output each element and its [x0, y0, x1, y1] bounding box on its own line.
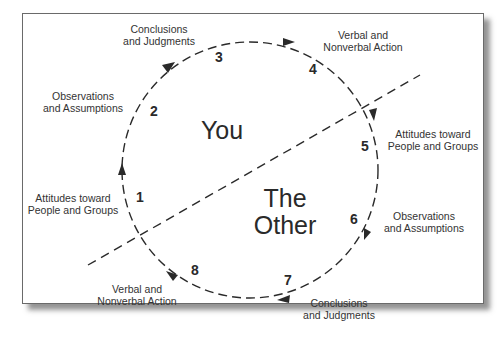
step-number-4: 4: [309, 61, 317, 77]
arrow-icon-6: [277, 295, 290, 303]
step-label-2: Observations and Assumptions: [43, 90, 123, 114]
step-number-5: 5: [361, 138, 369, 154]
step-label-8-line2: Nonverbal Action: [97, 295, 176, 307]
region-the-other: The Other: [254, 185, 317, 239]
step-label-5-line2: People and Groups: [388, 140, 478, 152]
step-number-3: 3: [215, 49, 223, 65]
arrow-icon-4: [369, 108, 377, 121]
step-label-2-line2: and Assumptions: [43, 102, 123, 114]
step-label-8-line1: Verbal and: [112, 283, 162, 295]
step-label-3: Conclusions and Judgments: [123, 23, 195, 47]
step-label-6-line1: Observations: [393, 210, 455, 222]
step-label-7-line1: Conclusions: [310, 297, 367, 309]
cycle-circle: [122, 42, 378, 298]
arrow-icon-5: [364, 228, 371, 240]
cycle-diagram: [0, 0, 502, 349]
step-label-7-line2: and Judgments: [303, 309, 375, 321]
step-label-4: Verbal and Nonverbal Action: [323, 29, 402, 53]
step-label-1-line2: People and Groups: [28, 204, 118, 216]
step-label-5: Attitudes toward People and Groups: [388, 128, 478, 152]
step-label-2-line1: Observations: [52, 90, 114, 102]
step-label-1: Attitudes toward People and Groups: [28, 192, 118, 216]
step-label-5-line1: Attitudes toward: [395, 128, 470, 140]
step-label-4-line2: Nonverbal Action: [323, 41, 402, 53]
step-number-2: 2: [150, 103, 158, 119]
arrow-icon-1: [118, 163, 126, 175]
step-label-4-line1: Verbal and: [338, 29, 388, 41]
step-label-8: Verbal and Nonverbal Action: [97, 283, 176, 307]
step-label-6: Observations and Assumptions: [384, 210, 464, 234]
region-other-line2: Other: [254, 211, 317, 239]
step-label-1-line1: Attitudes toward: [35, 192, 110, 204]
step-number-6: 6: [350, 211, 358, 227]
step-label-3-line2: and Judgments: [123, 35, 195, 47]
step-number-8: 8: [191, 262, 199, 278]
arrow-icon-7: [166, 271, 178, 281]
step-number-1: 1: [136, 189, 144, 205]
step-label-7: Conclusions and Judgments: [303, 297, 375, 321]
step-label-3-line1: Conclusions: [130, 23, 187, 35]
region-you: You: [201, 117, 243, 144]
region-other-line1: The: [263, 184, 306, 212]
step-number-7: 7: [284, 272, 292, 288]
step-label-6-line2: and Assumptions: [384, 222, 464, 234]
arrow-icon-3: [283, 38, 295, 46]
